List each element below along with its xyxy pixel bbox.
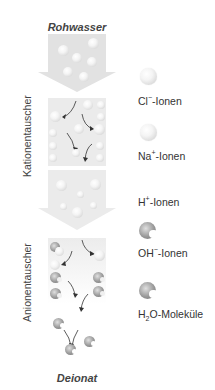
- anion-exchanger-label: Anionentauscher: [21, 243, 33, 322]
- dark-pacman-sphere-icon: [65, 344, 76, 355]
- sodium-ion-icon: [140, 124, 157, 141]
- dark-pacman-sphere-icon: [93, 272, 104, 283]
- chloride-ion-icon: [140, 68, 157, 85]
- light-sphere-icon: [72, 149, 80, 157]
- light-sphere-icon: [49, 142, 57, 150]
- light-sphere-icon: [58, 45, 69, 56]
- dark-pacman-sphere-icon: [53, 318, 64, 329]
- flow-diagram-shapes: [0, 0, 215, 390]
- cation-exchanger-label: Kationentauscher: [21, 95, 33, 177]
- light-sphere-icon: [90, 202, 97, 209]
- light-sphere-icon: [87, 57, 97, 67]
- dark-pacman-sphere-icon: [50, 288, 61, 299]
- dark-pacman-sphere-icon: [84, 336, 95, 347]
- legend-item-hydroxide: OH−-Ionen: [138, 246, 188, 259]
- legend-item-chloride: Cl−-Ionen: [138, 94, 182, 107]
- light-sphere-icon: [97, 113, 105, 121]
- light-sphere-icon: [49, 129, 57, 137]
- light-sphere-icon: [79, 72, 89, 82]
- light-sphere-icon: [94, 250, 105, 261]
- light-sphere-icon: [96, 154, 104, 162]
- raw-water-label: Rohwasser: [32, 21, 122, 33]
- dark-pacman-sphere-icon: [50, 272, 61, 283]
- dark-pacman-sphere-icon: [93, 286, 104, 297]
- light-sphere-icon: [97, 101, 105, 109]
- light-sphere-icon: [72, 53, 82, 63]
- light-sphere-icon: [90, 179, 101, 190]
- hydroxide-ion-icon: [139, 222, 156, 239]
- intermediate-arrow: [38, 170, 116, 230]
- legend-item-hydrogen: H+-Ionen: [138, 195, 179, 208]
- deionized-water-label: Deionat: [32, 372, 122, 384]
- water-molecule-icon: [139, 282, 156, 299]
- light-sphere-icon: [50, 260, 60, 270]
- light-sphere-icon: [77, 191, 84, 198]
- light-sphere-icon: [88, 38, 99, 49]
- light-sphere-icon: [60, 203, 67, 210]
- light-sphere-icon: [94, 124, 105, 135]
- light-sphere-icon: [83, 100, 93, 110]
- light-sphere-icon: [55, 247, 64, 256]
- light-sphere-icon: [72, 207, 83, 218]
- light-sphere-icon: [96, 142, 104, 150]
- raw-water-arrow: [38, 34, 116, 92]
- light-sphere-icon: [56, 180, 67, 191]
- light-sphere-icon: [49, 154, 57, 162]
- light-sphere-icon: [74, 124, 84, 134]
- light-sphere-icon: [63, 67, 73, 77]
- legend-item-water: H2O-Moleküle: [138, 308, 203, 322]
- legend-item-sodium: Na+-Ionen: [138, 149, 185, 162]
- light-sphere-icon: [50, 111, 61, 122]
